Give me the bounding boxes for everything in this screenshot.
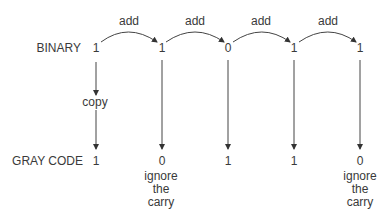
binary-label: BINARY [37, 42, 81, 55]
add-label: add [251, 15, 271, 28]
ignore-carry-note: ignore the carry [131, 170, 191, 209]
gray-bit: 1 [291, 155, 298, 168]
add-arc-2 [166, 32, 224, 42]
binary-bit: 1 [159, 42, 166, 55]
add-label: add [185, 15, 205, 28]
gray-bit: 1 [225, 155, 232, 168]
gray-bit: 0 [159, 155, 166, 168]
add-arc-1 [101, 32, 157, 42]
binary-bit: 1 [291, 42, 298, 55]
add-arc-4 [299, 32, 356, 42]
gray-bit: 1 [93, 155, 100, 168]
ignore-carry-note: ignore the carry [330, 170, 390, 209]
copy-label: copy [82, 96, 107, 109]
binary-bit: 1 [357, 42, 364, 55]
add-arc-3 [233, 32, 290, 42]
gray-code-label: GRAY CODE [12, 155, 83, 168]
add-label: add [318, 15, 338, 28]
add-label: add [119, 15, 139, 28]
binary-bit: 1 [93, 42, 100, 55]
gray-bit: 0 [357, 155, 364, 168]
binary-bit: 0 [225, 42, 232, 55]
